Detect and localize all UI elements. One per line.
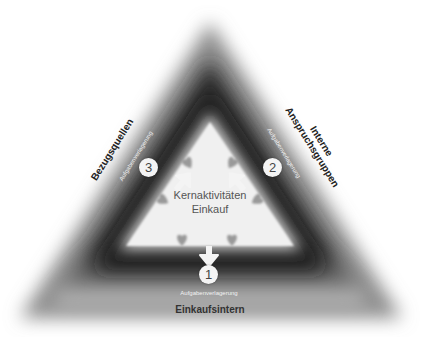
node-1-sub-label: Aufgabenverlagerung — [166, 290, 252, 296]
center-title-line2: Einkauf — [160, 202, 260, 216]
number-badge-2: 2 — [263, 158, 282, 177]
number-badge-3: 3 — [139, 158, 158, 177]
number-badge-1: 1 — [199, 265, 218, 284]
center-title: Kernaktivitäten Einkauf — [160, 188, 260, 216]
triangle-diagram — [0, 0, 422, 337]
node-1-label: Einkaufsintern — [160, 304, 260, 315]
center-title-line1: Kernaktivitäten — [160, 188, 260, 202]
